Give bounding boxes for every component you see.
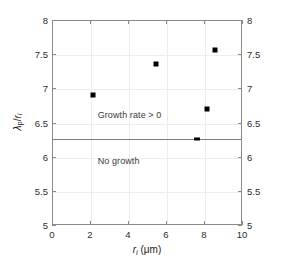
tick-mark-y-left [52, 123, 56, 124]
tick-mark-x-top [166, 20, 167, 24]
x-axis-tick-label: 4 [125, 229, 130, 240]
tick-mark-y-left [52, 225, 56, 226]
data-point [204, 107, 209, 112]
tick-mark-x-bottom [204, 221, 205, 225]
tick-mark-y-left [52, 157, 56, 158]
y-axis-left-tick-label: 6.5 [35, 117, 48, 128]
tick-mark-y-left [52, 191, 56, 192]
gridline-vertical [129, 21, 130, 224]
x-axis-tick-label: 8 [201, 229, 206, 240]
y-axis-right-tick-label: 6.5 [247, 117, 260, 128]
tick-mark-y-right [238, 54, 242, 55]
y-axis-left-tick-labels: 55.566.577.58 [22, 20, 48, 225]
y-axis-right-tick-label: 8 [247, 15, 252, 26]
gridline-vertical [167, 21, 168, 224]
y-axis-title: λp/ri [12, 20, 26, 225]
gridline-vertical [205, 21, 206, 224]
x-axis-tick-label: 6 [163, 229, 168, 240]
y-axis-right-tick-label: 7 [247, 83, 252, 94]
y-axis-denominator-symbol: r [12, 115, 23, 118]
y-axis-numerator-subscript: p [15, 121, 24, 125]
tick-mark-x-top [52, 20, 53, 24]
no-growth-label: No growth [98, 156, 140, 166]
x-axis-tick-label: 2 [87, 229, 92, 240]
chart-figure: Growth rate > 0No growth 55.566.577.58 5… [0, 0, 290, 268]
tick-mark-x-top [90, 20, 91, 24]
gridline-horizontal [53, 124, 241, 125]
plot-area: Growth rate > 0No growth [52, 20, 242, 225]
y-axis-divider: / [12, 119, 23, 122]
y-axis-left-tick-label: 5 [43, 220, 48, 231]
gridline-vertical [91, 21, 92, 224]
y-axis-right-tick-label: 5 [247, 220, 252, 231]
gridline-horizontal [53, 89, 241, 90]
data-point [194, 138, 200, 141]
tick-mark-y-right [238, 88, 242, 89]
tick-mark-y-right [238, 123, 242, 124]
y-axis-left-tick-label: 7 [43, 83, 48, 94]
x-axis-title: ri (μm) [52, 244, 242, 257]
y-axis-left-tick-label: 5.5 [35, 185, 48, 196]
tick-mark-y-right [238, 225, 242, 226]
y-axis-numerator-symbol: λ [12, 126, 23, 131]
growth-threshold-line [53, 139, 241, 140]
tick-mark-x-bottom [52, 221, 53, 225]
tick-mark-x-bottom [90, 221, 91, 225]
tick-mark-x-bottom [166, 221, 167, 225]
y-axis-left-tick-label: 8 [43, 15, 48, 26]
gridline-horizontal [53, 158, 241, 159]
y-axis-right-tick-label: 6 [247, 151, 252, 162]
tick-mark-y-left [52, 54, 56, 55]
y-axis-left-tick-label: 6 [43, 151, 48, 162]
gridline-horizontal [53, 192, 241, 193]
tick-mark-x-top [242, 20, 243, 24]
x-axis-tick-labels: 0246810 [52, 229, 242, 243]
x-axis-tick-label: 10 [237, 229, 248, 240]
tick-mark-y-right [238, 191, 242, 192]
y-axis-denominator-subscript: i [15, 114, 24, 116]
x-axis-tick-label: 0 [49, 229, 54, 240]
tick-mark-y-right [238, 157, 242, 158]
growth-positive-label: Growth rate > 0 [98, 110, 162, 120]
tick-mark-x-bottom [128, 221, 129, 225]
data-point [90, 92, 95, 97]
tick-mark-x-top [128, 20, 129, 24]
y-axis-right-tick-label: 5.5 [247, 185, 260, 196]
y-axis-right-tick-labels: 55.566.577.58 [247, 20, 277, 225]
x-axis-units: (μm) [138, 244, 162, 255]
y-axis-left-tick-label: 7.5 [35, 49, 48, 60]
y-axis-right-tick-label: 7.5 [247, 49, 260, 60]
tick-mark-y-left [52, 88, 56, 89]
tick-mark-x-bottom [242, 221, 243, 225]
tick-mark-x-top [204, 20, 205, 24]
data-point [153, 62, 158, 67]
gridline-horizontal [53, 55, 241, 56]
data-point [212, 48, 217, 53]
